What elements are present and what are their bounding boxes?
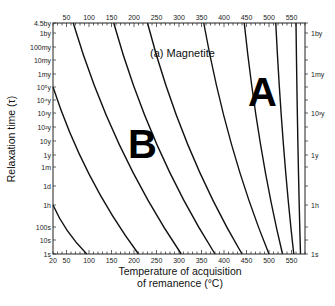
- region-b-label: B: [128, 122, 157, 166]
- x-top-tick-label: 300: [173, 14, 185, 21]
- contour-line: [276, 23, 294, 254]
- x-tick-label: 100: [83, 257, 95, 264]
- y-right-tick-label: 1y: [311, 152, 319, 160]
- y-tick-label: 10y: [40, 138, 52, 146]
- x-top-tick-label: 450: [241, 14, 253, 21]
- y-tick-label: 10³y: [37, 110, 51, 118]
- relaxation-time-chart: 2050100150200250300350400450500550501001…: [0, 0, 335, 306]
- region-a-label: A: [248, 70, 277, 114]
- y-tick-label: 10my: [34, 57, 52, 65]
- y-tick-label: 1s: [44, 251, 52, 258]
- x-tick-label: 50: [63, 257, 71, 264]
- x-tick-label: 400: [218, 257, 230, 264]
- y-right-tick-label: 1my: [311, 71, 325, 79]
- x-top-tick-label: 100: [83, 14, 95, 21]
- x-top-tick-label: 500: [263, 14, 275, 21]
- contour-line: [244, 23, 282, 254]
- x-tick-label: 250: [151, 257, 163, 264]
- contour-line: [296, 23, 301, 254]
- y-tick-label: 1h: [43, 202, 51, 209]
- x-tick-label: 350: [196, 257, 208, 264]
- x-tick-label: 300: [173, 257, 185, 264]
- y-right-tick-label: 10³y: [311, 110, 325, 118]
- y-tick-label: 100my: [30, 44, 52, 52]
- x-top-tick-label: 200: [128, 14, 140, 21]
- y-tick-label: 1my: [38, 71, 52, 79]
- x-top-tick-label: 250: [151, 14, 163, 21]
- x-tick-label: 150: [106, 257, 118, 264]
- x-tick-label: 500: [263, 257, 275, 264]
- y-axis-title: Relaxation time (τ): [5, 96, 17, 182]
- y-tick-label: 1by: [40, 30, 52, 38]
- x-tick-label: 200: [128, 257, 140, 264]
- x-top-tick-label: 400: [218, 14, 230, 21]
- y-right-tick-label: 1h: [311, 202, 319, 209]
- y-tick-label: 1y: [44, 152, 52, 160]
- y-tick-label: 4.5by: [34, 20, 52, 28]
- x-top-tick-label: 350: [196, 14, 208, 21]
- x-tick-label: 550: [286, 257, 298, 264]
- y-tick-label: 10⁴y: [37, 97, 52, 105]
- contour-line: [53, 205, 87, 254]
- y-right-tick-label: 1s: [311, 251, 319, 258]
- x-axis-title-line1: Temperature of acquisition: [118, 265, 241, 277]
- y-tick-label: 10⁵y: [37, 84, 52, 92]
- y-tick-label: 1m: [41, 164, 51, 171]
- x-top-tick-label: 50: [63, 14, 71, 21]
- x-top-tick-label: 550: [286, 14, 298, 21]
- y-right-tick-label: 1by: [311, 30, 323, 38]
- x-top-tick-label: 150: [106, 14, 118, 21]
- y-tick-label: 10s: [40, 237, 52, 244]
- panel-label: (a) Magnetite: [150, 47, 215, 59]
- y-tick-label: 1d: [43, 183, 51, 190]
- y-tick-label: 100s: [36, 224, 52, 231]
- x-tick-label: 20: [49, 257, 57, 264]
- y-tick-label: 10²y: [37, 124, 51, 132]
- x-axis-title-line2: of remanence (°C): [137, 277, 223, 289]
- x-tick-label: 450: [241, 257, 253, 264]
